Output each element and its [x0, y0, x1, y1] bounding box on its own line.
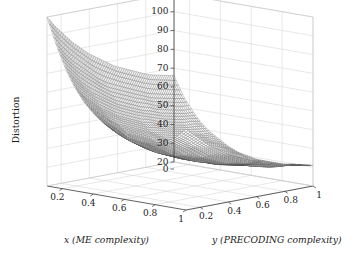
x-tick-0.2: 0.2 [50, 192, 64, 202]
z-tick-90: 90 [157, 25, 169, 35]
svg-text:y (PRECODING complexity): y (PRECODING complexity) [211, 234, 342, 245]
z-tick-20: 20 [157, 157, 169, 167]
y-tick-0.8: 0.8 [284, 195, 299, 205]
y-tick-0.2: 0.2 [199, 211, 213, 221]
x-tick-0.6: 0.6 [112, 203, 127, 213]
z-axis-label: Distortion [10, 97, 21, 144]
z-tick-60: 60 [157, 81, 169, 91]
y-axis-label: y (PRECODING complexity) [211, 234, 342, 245]
x-tick-1: 1 [178, 214, 184, 224]
y-axis-label-text: y (PRECODING complexity) [211, 234, 342, 245]
y-tick-0.4: 0.4 [227, 206, 242, 216]
z-tick-100: 100 [151, 6, 168, 16]
svg-text:x (ME complexity): x (ME complexity) [64, 234, 149, 245]
mesh-surface [47, 17, 313, 167]
z-tick-40: 40 [157, 119, 169, 129]
z-tick-70: 70 [157, 63, 169, 73]
x-axis-label-text: x (ME complexity) [64, 234, 149, 245]
distortion-surface-figure: 020304050607080901001100.20.40.60.810.20… [0, 0, 363, 260]
z-tick-80: 80 [157, 44, 169, 54]
x-tick-0.8: 0.8 [143, 208, 158, 218]
y-tick-1: 1 [316, 190, 322, 200]
y-tick-0.6: 0.6 [255, 200, 270, 210]
x-tick-0.4: 0.4 [81, 198, 96, 208]
axis-floor [61, 162, 313, 210]
z-tick-50: 50 [157, 100, 169, 110]
z-tick-30: 30 [157, 138, 169, 148]
x-axis-label: x (ME complexity) [64, 234, 149, 245]
